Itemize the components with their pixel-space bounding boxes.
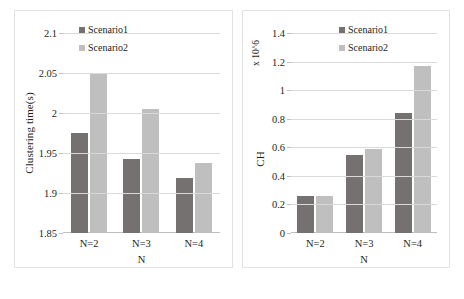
y-axis-tick-label: 2.1 (44, 28, 57, 39)
y-axis-tick-label: 1.2 (272, 56, 285, 67)
y-axis-tick-label: 0.6 (272, 142, 285, 153)
y-axis-tick-label: 1 (280, 85, 285, 96)
bar-group: N=3 (115, 33, 167, 233)
plot-area-right: N=2N=3N=4 00.20.40.60.811.21.4 (291, 33, 437, 233)
bar-scenario2-N3[interactable] (142, 109, 159, 233)
y-axis-tickmark (59, 73, 63, 74)
bar-scenario2-N3[interactable] (365, 149, 382, 233)
gridline (291, 204, 437, 205)
bar-scenario2-N2[interactable] (316, 196, 333, 233)
gridline (63, 153, 220, 154)
bar-scenario1-N3[interactable] (346, 155, 363, 233)
chart-panel-right: x 10^6 CH Scenario1 Scenario2 N=2N=3N=4 … (242, 10, 450, 268)
y-axis-tick-label: 0.2 (272, 199, 285, 210)
y-axis-tick-label: 1.85 (39, 228, 57, 239)
bar-group: N=4 (168, 33, 220, 233)
bar-scenario1-N4[interactable] (395, 113, 412, 233)
y-axis-tick-label: 2 (52, 108, 57, 119)
gridline (291, 62, 437, 63)
y-axis-tickmark (59, 33, 63, 34)
x-axis-title-left: N (63, 254, 220, 265)
y-axis-exponent-right: x 10^6 (251, 25, 261, 81)
figure-container: Clustering time(s) Scenario1 Scenario2 N… (0, 0, 464, 299)
y-axis-title-left: Clustering time(s) (23, 83, 35, 183)
x-axis-tick-label: N=4 (168, 238, 220, 249)
y-axis-tickmark (287, 176, 291, 177)
y-axis-tickmark (287, 204, 291, 205)
y-axis-tickmark (287, 119, 291, 120)
bar-scenario1-N2[interactable] (71, 133, 88, 233)
y-axis-tick-label: 0.4 (272, 170, 285, 181)
gridline (291, 33, 437, 34)
y-axis-tick-label: 0.8 (272, 113, 285, 124)
y-axis-tick-label: 1.95 (39, 148, 57, 159)
gridline (291, 176, 437, 177)
bar-group: N=2 (291, 33, 340, 233)
bar-scenario1-N2[interactable] (297, 196, 314, 233)
gridline (63, 33, 220, 34)
x-axis-tick-label: N=3 (340, 238, 389, 249)
y-axis-tickmark (287, 90, 291, 91)
y-axis-tick-label: 1.4 (272, 28, 285, 39)
chart-panel-left: Clustering time(s) Scenario1 Scenario2 N… (14, 10, 233, 268)
bar-group: N=3 (340, 33, 389, 233)
x-axis-tick-label: N=4 (388, 238, 437, 249)
y-axis-tick-label: 1.9 (44, 188, 57, 199)
y-axis-tickmark (287, 33, 291, 34)
gridline (63, 193, 220, 194)
y-axis-tickmark (59, 193, 63, 194)
bar-scenario1-N4[interactable] (176, 178, 193, 233)
bar-group: N=4 (388, 33, 437, 233)
gridline (291, 90, 437, 91)
y-axis-tickmark (287, 233, 291, 234)
caption-remnant (30, 286, 434, 296)
bar-group: N=2 (63, 33, 115, 233)
y-axis-tickmark (287, 62, 291, 63)
gridline (63, 73, 220, 74)
bar-groups-right: N=2N=3N=4 (291, 33, 437, 233)
bar-groups-left: N=2N=3N=4 (63, 33, 220, 233)
bar-scenario1-N3[interactable] (123, 159, 140, 233)
gridline (291, 119, 437, 120)
y-axis-tick-label: 0 (280, 228, 285, 239)
x-axis-title-right: N (291, 254, 437, 265)
y-axis-title-right: CH (254, 129, 266, 189)
y-axis-tickmark (287, 147, 291, 148)
y-axis-tickmark (59, 113, 63, 114)
gridline (63, 113, 220, 114)
x-axis-tick-label: N=2 (291, 238, 340, 249)
x-axis-tick-label: N=3 (115, 238, 167, 249)
y-axis-tickmark (59, 153, 63, 154)
plot-area-left: N=2N=3N=4 1.851.91.9522.052.1 (63, 33, 220, 233)
y-axis-tick-label: 2.05 (39, 68, 57, 79)
x-axis-tick-label: N=2 (63, 238, 115, 249)
y-axis-tickmark (59, 233, 63, 234)
bar-scenario2-N4[interactable] (195, 163, 212, 233)
gridline (291, 147, 437, 148)
